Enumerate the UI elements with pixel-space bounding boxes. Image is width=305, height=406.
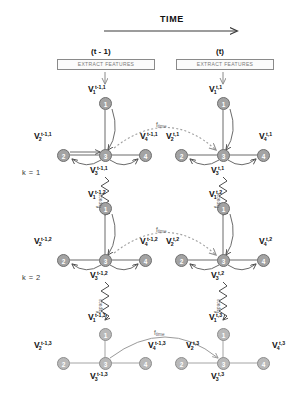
space-function-label-prev-k1: fspace <box>96 194 104 208</box>
vlabel-prev-k1-3: V3t-1,1 <box>90 166 108 176</box>
vlabel-prev-k2-4: V4t-1,2 <box>140 237 158 247</box>
node-number: 1 <box>222 332 226 339</box>
node-prev-k1-4[interactable]: 4 <box>139 149 152 162</box>
vlabel-prev-k1-2: V2t-1,1 <box>34 132 52 142</box>
space-function-label-curr-k1: fspace <box>214 194 222 208</box>
vlabel-curr-k3-3: V3t,3 <box>211 372 224 382</box>
scale-label-k2: k = 2 <box>22 273 40 282</box>
node-prev-k2-4[interactable]: 4 <box>139 254 152 267</box>
vlabel-curr-k3-1: V1t,3 <box>209 313 222 323</box>
node-prev-k3-2[interactable]: 2 <box>57 357 70 370</box>
node-prev-k1-1[interactable]: 1 <box>99 97 112 110</box>
node-curr-k1-3[interactable]: 3 <box>217 149 230 162</box>
node-number: 2 <box>62 258 66 265</box>
node-curr-k2-2[interactable]: 2 <box>175 254 188 267</box>
node-number: 1 <box>222 101 226 108</box>
node-prev-k3-1[interactable]: 1 <box>99 328 112 341</box>
vlabel-prev-k2-3: V3t-1,2 <box>90 271 108 281</box>
node-number: 1 <box>104 206 108 213</box>
node-number: 3 <box>104 153 108 160</box>
space-function-label-curr-k2: fspace <box>214 299 222 313</box>
node-number: 1 <box>104 101 108 108</box>
node-number: 4 <box>144 361 148 368</box>
node-number: 4 <box>262 361 266 368</box>
node-curr-k1-2[interactable]: 2 <box>175 149 188 162</box>
node-prev-k2-3[interactable]: 3 <box>99 254 112 267</box>
vlabel-curr-k3-2: V2t,3 <box>186 341 199 351</box>
node-curr-k3-4[interactable]: 4 <box>257 357 270 370</box>
node-curr-k3-2[interactable]: 2 <box>175 357 188 370</box>
vlabel-prev-k3-2: V2t-1,3 <box>34 341 52 351</box>
node-prev-k1-3[interactable]: 3 <box>99 149 112 162</box>
node-number: 2 <box>62 361 66 368</box>
vlabel-prev-k1-1: V1t-1,1 <box>88 85 106 95</box>
node-number: 3 <box>104 258 108 265</box>
node-number: 2 <box>180 361 184 368</box>
vlabel-prev-k3-1: V1t-1,3 <box>88 313 106 323</box>
node-prev-k3-4[interactable]: 4 <box>139 357 152 370</box>
vlabel-curr-k1-2: V2t,1 <box>166 132 179 142</box>
vlabel-curr-k1-1: V1t,1 <box>209 85 222 95</box>
vlabel-curr-k1-3: V3t,1 <box>211 166 224 176</box>
time-arc-k1 <box>114 127 216 150</box>
time-function-label-k2: ftime <box>156 227 167 235</box>
vlabel-prev-k3-3: V3t-1,3 <box>90 372 108 382</box>
node-number: 2 <box>180 258 184 265</box>
time-axis-label: TIME <box>160 14 184 24</box>
node-number: 1 <box>104 332 108 339</box>
node-number: 3 <box>222 258 226 265</box>
vlabel-curr-k2-3: V3t,2 <box>211 271 224 281</box>
scale-label-k1: k = 1 <box>22 168 40 177</box>
vlabel-curr-k3-4: V4t,3 <box>272 341 285 351</box>
node-number: 3 <box>222 153 226 160</box>
column-label-curr: (t) <box>216 47 224 56</box>
node-number: 1 <box>222 206 226 213</box>
node-number: 4 <box>262 258 266 265</box>
extract-features-box-curr[interactable]: EXTRACT FEATURES <box>176 59 274 70</box>
node-prev-k2-2[interactable]: 2 <box>57 254 70 267</box>
time-function-label-k3: ftime <box>154 330 165 338</box>
vlabel-prev-k2-2: V2t-1,2 <box>34 237 52 247</box>
node-number: 4 <box>144 153 148 160</box>
time-arc-k2 <box>114 232 216 255</box>
node-curr-k1-1[interactable]: 1 <box>217 97 230 110</box>
space-function-label-prev-k2: fspace <box>96 299 104 313</box>
figure-canvas: TIME (t - 1) EXTRACT FEATURES (t) EXTRAC… <box>0 0 305 406</box>
vlabel-prev-k1-4: V4t-1,1 <box>140 132 158 142</box>
node-curr-k2-4[interactable]: 4 <box>257 254 270 267</box>
node-curr-k2-3[interactable]: 3 <box>217 254 230 267</box>
node-prev-k3-3[interactable]: 3 <box>99 357 112 370</box>
vlabel-curr-k2-4: V4t,2 <box>259 237 272 247</box>
node-number: 2 <box>62 153 66 160</box>
vlabel-curr-k2-2: V2t,2 <box>166 237 179 247</box>
node-number: 3 <box>222 361 226 368</box>
extract-features-box-prev[interactable]: EXTRACT FEATURES <box>57 59 155 70</box>
column-label-prev: (t - 1) <box>91 47 111 56</box>
node-curr-k1-4[interactable]: 4 <box>257 149 270 162</box>
vlabel-curr-k1-4: V4t,1 <box>259 132 272 142</box>
vlabel-prev-k3-4: V4t-1,3 <box>148 341 166 351</box>
node-curr-k3-3[interactable]: 3 <box>217 357 230 370</box>
node-prev-k1-2[interactable]: 2 <box>57 149 70 162</box>
node-number: 2 <box>180 153 184 160</box>
node-number: 4 <box>144 258 148 265</box>
node-curr-k3-1[interactable]: 1 <box>217 328 230 341</box>
node-number: 4 <box>262 153 266 160</box>
node-number: 3 <box>104 361 108 368</box>
time-function-label-k1: ftime <box>156 122 167 130</box>
